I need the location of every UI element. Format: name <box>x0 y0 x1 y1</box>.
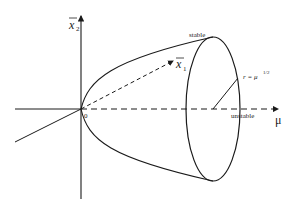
mu-label: μ <box>275 113 281 127</box>
svg-text:x: x <box>175 57 182 71</box>
radius-label: r = μ 1/2 <box>243 70 270 81</box>
bifurcation-diagram: x 2 x 1 μ 0 stable unstable r = μ 1/2 <box>0 0 300 207</box>
stable-label: stable <box>189 31 205 39</box>
x2-label: x 2 <box>68 18 80 33</box>
svg-text:1/2: 1/2 <box>263 70 270 75</box>
svg-text:2: 2 <box>76 25 80 33</box>
svg-text:x: x <box>68 18 75 32</box>
oblique-axis-back <box>15 109 81 142</box>
svg-text:r = μ: r = μ <box>243 73 258 81</box>
radius-line <box>213 78 238 109</box>
paraboloid-lower-curve <box>81 109 213 181</box>
x1-label: x 1 <box>175 57 187 73</box>
svg-text:1: 1 <box>183 65 187 73</box>
x1-axis <box>81 61 173 109</box>
origin-label: 0 <box>84 112 88 120</box>
unstable-label: unstable <box>231 112 254 120</box>
